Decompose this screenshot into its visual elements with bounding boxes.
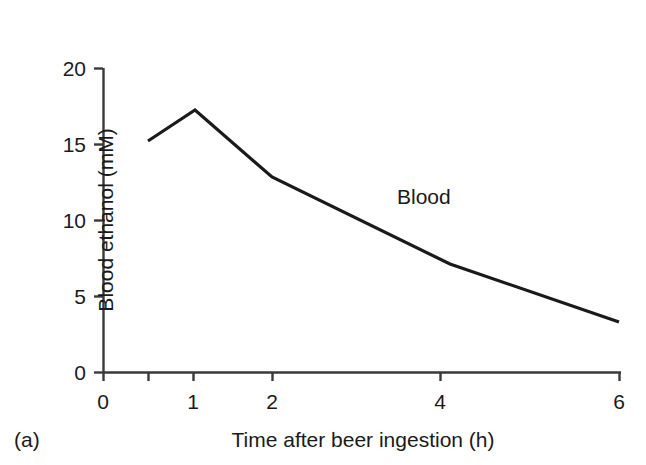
panel-label: (a) — [14, 428, 40, 452]
x-tick-label-4: 4 — [434, 391, 446, 412]
x-tick-label-6: 6 — [613, 391, 625, 412]
y-tick-label-5: 5 — [42, 286, 86, 307]
y-tick-label-10: 10 — [42, 210, 86, 231]
x-tick-label-0: 0 — [97, 391, 109, 412]
y-axis-title: Blood ethanol (mM) — [94, 128, 118, 311]
x-tick-label-1: 1 — [187, 391, 199, 412]
x-tick-label-2: 2 — [266, 391, 278, 412]
x-axis-title: Time after beer ingestion (h) — [231, 428, 494, 452]
series-line-blood — [148, 110, 619, 322]
y-tick-label-15: 15 — [42, 134, 86, 155]
y-tick-label-0: 0 — [42, 362, 86, 383]
figure-panel-a: 20 15 10 5 0 0 1 2 4 6 Blood ethanol (mM… — [0, 0, 646, 465]
y-tick-label-20: 20 — [42, 58, 86, 79]
series-annotation-blood: Blood — [397, 185, 451, 209]
